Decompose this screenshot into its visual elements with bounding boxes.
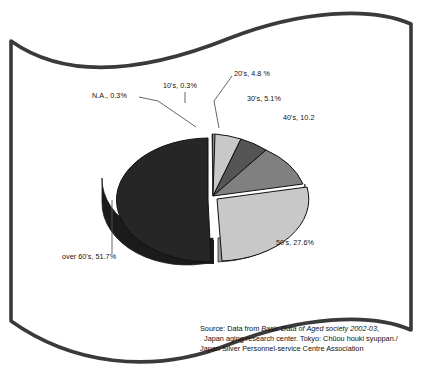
source-line-1-suffix: ,: [377, 324, 379, 333]
source-line-3: Japan Silver Personnel-service Centre As…: [200, 344, 415, 354]
source-citation: Source: Data from Basic Data of Aged soc…: [200, 324, 415, 355]
leader-lines: [0, 0, 422, 366]
leader-20s: [214, 76, 232, 128]
source-line-2: Japan aging research center. Tokyo: Chūo…: [200, 334, 415, 344]
source-line-1-prefix: Source: Data from: [200, 324, 261, 333]
pie-label-40s: 40's, 10.2: [283, 113, 314, 122]
pie-label-30s: 30's, 5.1%: [247, 94, 281, 103]
source-line-1: Source: Data from Basic Data of Aged soc…: [200, 324, 415, 334]
pie-label-10s: 10's, 0.3%: [163, 81, 197, 90]
pie-label-50s: 50's, 27.6%: [276, 238, 314, 247]
figure-canvas: N.A., 0.3% 10's, 0.3% 20's, 4.8 % 30's, …: [0, 0, 422, 366]
pie-label-na: N.A., 0.3%: [92, 91, 127, 100]
leader-na: [139, 97, 196, 127]
source-line-1-italic: Basic Data of Aged society 2002-03: [261, 324, 377, 333]
pie-label-20s: 20's, 4.8 %: [234, 69, 270, 78]
pie-label-over-60s: over 60's, 51.7%: [62, 252, 116, 261]
